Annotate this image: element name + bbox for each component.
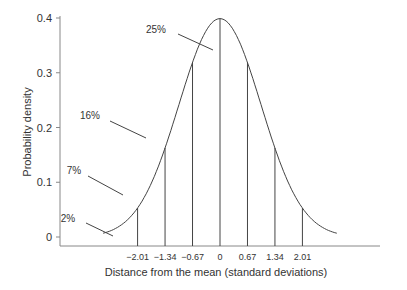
y-ticks: 00.10.20.30.4 [37,12,60,243]
y-axis-label: Probability density [21,87,33,177]
y-tick-label: 0 [46,231,52,243]
sd-vertical-lines [138,19,303,246]
annotation-label: 7% [67,165,82,176]
x-tick-label: 0.67 [239,252,257,262]
y-tick-label: 0.2 [37,122,52,134]
annotation-label: 2% [61,213,76,224]
x-tick-label: 2.01 [294,252,312,262]
x-tick-label: −1.34 [154,252,177,262]
y-tick-label: 0.1 [37,176,52,188]
x-tick-label: 0 [217,252,222,262]
percentage-annotations: 2%7%16%25% [61,24,213,236]
normal-distribution-chart: 00.10.20.30.4 −2.01−1.34−0.6700.671.342.… [0,0,407,290]
x-ticks: −2.01−1.34−0.6700.671.342.01 [126,252,311,262]
annotation-leader-line [110,121,146,138]
annotation-leader-line [178,34,213,50]
y-tick-label: 0.3 [37,67,52,79]
x-tick-label: −0.67 [181,252,204,262]
y-tick-label: 0.4 [37,12,52,24]
annotation-label: 16% [80,110,100,121]
x-tick-label: 1.34 [266,252,284,262]
annotation-leader-line [86,223,113,236]
x-tick-label: −2.01 [126,252,149,262]
x-axis-label: Distance from the mean (standard deviati… [105,266,328,278]
annotation-label: 25% [146,24,166,35]
annotation-leader-line [88,176,123,195]
